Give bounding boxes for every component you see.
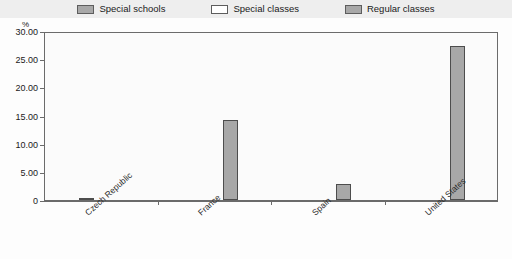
bar (223, 120, 238, 200)
chart-legend: Special schools Special classes Regular … (0, 0, 512, 18)
y-axis-tick-label: 25.00 (15, 55, 38, 65)
bar (79, 198, 94, 200)
y-axis-tick-label: 30.00 (15, 27, 38, 37)
bar-chart: % 30.0025.0020.0015.0010.005.000 Czech R… (0, 18, 512, 259)
legend-item-regular-classes: Regular classes (345, 4, 435, 14)
y-axis-tick-label: 20.00 (15, 83, 38, 93)
x-axis-tick (385, 201, 386, 205)
legend-label: Regular classes (367, 4, 435, 14)
legend-label: Special schools (99, 4, 165, 14)
x-axis-tick (158, 201, 159, 205)
y-axis-tick-label: 5.00 (20, 168, 38, 178)
bar (336, 184, 351, 200)
legend-swatch-icon (77, 5, 94, 14)
y-axis-tick-labels: 30.0025.0020.0015.0010.005.000 (0, 32, 44, 201)
legend-item-special-schools: Special schools (77, 4, 165, 14)
legend-swatch-icon (211, 5, 228, 14)
y-axis-tick-label: 0 (33, 196, 38, 206)
plot-area (44, 32, 498, 201)
y-axis-tick-label: 15.00 (15, 112, 38, 122)
y-axis-tick-label: 10.00 (15, 140, 38, 150)
x-axis-tick (271, 201, 272, 205)
legend-swatch-icon (345, 5, 362, 14)
legend-label: Special classes (233, 4, 298, 14)
legend-item-special-classes: Special classes (211, 4, 298, 14)
